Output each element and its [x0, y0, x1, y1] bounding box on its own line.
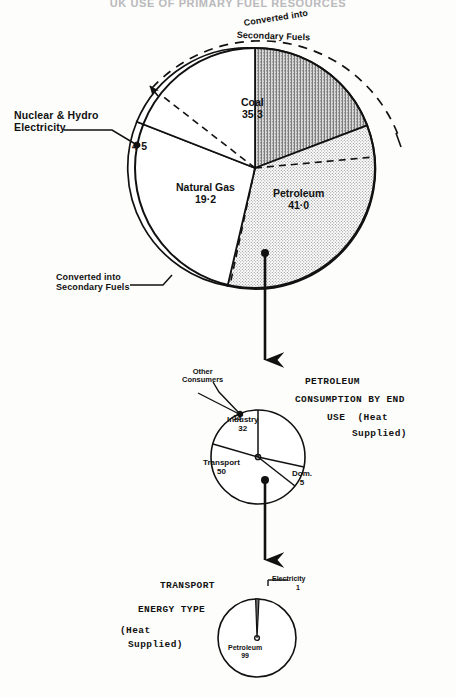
label-natural-gas-name: Natural Gas — [176, 181, 235, 193]
heading-petroleum-line2: CONSUMPTION BY END — [295, 395, 405, 406]
converted-arc-tick-right — [396, 133, 401, 147]
label-coal-name: Coal — [241, 96, 264, 108]
label-transport-name: Transport — [203, 458, 240, 467]
label-electricity: Electricity — [272, 575, 305, 583]
label-nuclear-hydro-text: Nuclear & HydroElectricity — [14, 109, 99, 133]
label-transport: Transport50 — [203, 459, 240, 477]
flow-arrow-top-origin — [261, 249, 269, 257]
label-coal-value: 35·3 — [242, 108, 263, 120]
label-petroleum: Petroleum41·0 — [273, 188, 324, 212]
heading-petroleum-line1: PETROLEUM — [305, 377, 360, 388]
leader-converted-bottom — [130, 275, 172, 285]
heading-petroleum-line4: Supplied) — [352, 429, 407, 440]
label-industry: Industry32 — [227, 416, 259, 434]
label-natural-gas-value: 19·2 — [195, 193, 216, 205]
label-petroleum-name: Petroleum — [273, 187, 324, 199]
label-natural-gas: Natural Gas19·2 — [176, 182, 235, 206]
label-industry-name: Industry — [227, 415, 259, 424]
label-transport-petroleum-name: Petroleum — [228, 644, 262, 651]
heading-transport-line2: ENERGY TYPE — [138, 605, 205, 616]
flow-arrow-bottom-origin — [261, 476, 269, 484]
label-nuclear-hydro: Nuclear & HydroElectricity — [14, 110, 99, 134]
label-transport-value: 50 — [217, 467, 226, 476]
heading-petroleum-line3: USE (Heat — [327, 413, 388, 424]
label-nuclear-hydro-value: 4·5 — [132, 141, 147, 153]
label-coal: Coal35·3 — [241, 97, 264, 121]
label-transport-petroleum-value: 99 — [241, 652, 249, 659]
label-transport-petroleum: Petroleum99 — [228, 644, 262, 660]
fuel-resources-diagram — [0, 0, 456, 697]
heading-transport-line1: TRANSPORT — [160, 581, 215, 592]
label-petroleum-value: 41·0 — [288, 199, 309, 211]
label-dom-value: 5 — [300, 478, 304, 487]
annotation-converted-bottom: Converted intoSecondary Fuels — [56, 272, 130, 292]
leader-other-consumers — [213, 382, 240, 414]
figure-canvas: UK USE OF PRIMARY FUEL RESOURCES Nuclear… — [0, 0, 456, 697]
label-industry-value: 32 — [238, 424, 247, 433]
label-other-consumers: OtherConsumers — [182, 368, 223, 385]
page-title: UK USE OF PRIMARY FUEL RESOURCES — [0, 0, 456, 9]
heading-transport-line3: (Heat — [120, 626, 151, 637]
label-electricity-value: 1 — [296, 584, 300, 592]
annotation-converted-bottom-line2: Secondary Fuels — [56, 282, 130, 292]
label-dom-name: Dom. — [292, 469, 312, 478]
heading-transport-line4: Supplied) — [128, 640, 183, 651]
annotation-converted-bottom-line1: Converted into — [56, 272, 121, 282]
label-dom: Dom.5 — [292, 470, 312, 488]
annotation-converted-top: Converted intoSecondary Fuels — [243, 18, 317, 38]
